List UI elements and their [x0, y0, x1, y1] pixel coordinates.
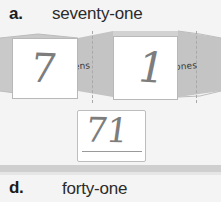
- problem-word-number-a: seventy-one: [52, 4, 142, 24]
- answer-box[interactable]: 71: [77, 110, 146, 162]
- tens-digit-card[interactable]: 7: [12, 38, 78, 99]
- handwritten-answer: 71: [83, 110, 130, 151]
- problem-word-number-d: forty-one: [62, 179, 127, 199]
- ones-label: ones: [175, 60, 198, 72]
- worksheet-page: a. seventy-one tens ones 7 1 71 d. forty…: [0, 0, 221, 202]
- ones-digit-card[interactable]: 1: [113, 36, 178, 100]
- section-separator: [0, 165, 221, 172]
- problem-label-a: a.: [9, 4, 23, 24]
- fold-line-tens: [92, 31, 93, 103]
- handwritten-tens-digit: 7: [28, 45, 60, 92]
- section-separator-shadow: [0, 172, 221, 175]
- handwritten-ones-digit: 1: [133, 42, 170, 92]
- problem-label-d: d.: [9, 178, 24, 198]
- answer-underline: [82, 151, 142, 152]
